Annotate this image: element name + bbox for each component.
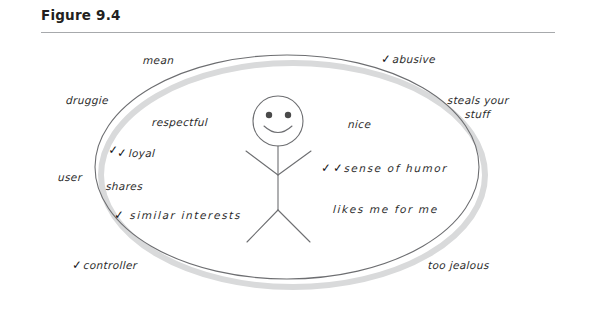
check-icon: ✓ <box>72 258 82 272</box>
label-respectful-text: respectful <box>152 116 209 128</box>
label-shares: shares <box>106 180 144 192</box>
check-icon: ✓ <box>333 161 343 175</box>
label-likes-me-for-me-text: likes me for me <box>333 203 439 215</box>
diagram-canvas: respectful ✓✓loyal shares ✓similar inter… <box>0 36 593 309</box>
label-user: user <box>58 171 83 183</box>
label-respectful: respectful <box>152 116 209 128</box>
stick-figure-eye-right <box>285 112 291 118</box>
label-user-text: user <box>58 171 83 183</box>
label-too-jealous-text: too jealous <box>428 259 490 271</box>
label-loyal-text: loyal <box>128 147 155 159</box>
label-druggie: druggie <box>66 94 109 106</box>
label-controller-text: controller <box>83 259 137 271</box>
label-sense-of-humor-text: sense of humor <box>344 162 449 174</box>
figure-page: Figure 9.4 respectful <box>0 0 593 309</box>
label-steals-your-stuff: steals your stuff <box>437 93 518 121</box>
label-nice: nice <box>348 118 372 130</box>
label-nice-text: nice <box>348 118 372 130</box>
stick-figure-eye-left <box>266 112 272 118</box>
label-shares-text: shares <box>106 180 144 192</box>
label-loyal: ✓✓loyal <box>108 146 156 160</box>
check-icon: ✓ <box>381 52 391 66</box>
label-steals-your-stuff-line1: steals your <box>447 94 509 106</box>
label-likes-me-for-me: likes me for me <box>333 203 439 215</box>
page-title: Figure 9.4 <box>41 7 121 23</box>
label-mean-text: mean <box>143 54 175 66</box>
label-controller: ✓controller <box>72 258 138 272</box>
check-icon: ✓ <box>114 208 124 222</box>
label-steals-your-stuff-line2: stuff <box>465 108 491 120</box>
label-mean: mean <box>143 54 175 66</box>
label-similar-interests-text: similar interests <box>130 209 242 221</box>
label-similar-interests: ✓similar interests <box>115 208 243 222</box>
label-druggie-text: druggie <box>66 94 109 106</box>
label-abusive: ✓abusive <box>381 52 437 66</box>
check-icon: ✓ <box>117 146 127 160</box>
label-abusive-text: abusive <box>392 53 436 65</box>
check-icon: ✓ <box>321 161 331 175</box>
title-divider <box>41 32 555 33</box>
label-sense-of-humor: ✓✓sense of humor <box>321 161 449 175</box>
label-too-jealous: too jealous <box>428 259 490 271</box>
